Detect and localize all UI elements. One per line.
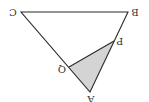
- geometry-diagram: C B P Q A: [0, 0, 149, 102]
- label-p: P: [116, 36, 123, 47]
- label-c: C: [9, 7, 17, 18]
- label-q: Q: [58, 64, 66, 75]
- label-b: B: [131, 7, 138, 18]
- shaded-triangle-apq: [69, 41, 114, 92]
- label-a: A: [87, 94, 96, 102]
- triangle-abc: [21, 12, 128, 92]
